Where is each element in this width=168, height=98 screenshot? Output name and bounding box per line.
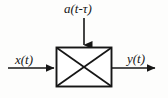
block-diagram-figure: x(t) y(t) a(t-τ) [0,0,168,98]
input-signal-label: x(t) [15,53,33,66]
output-signal-label: y(t) [127,52,145,65]
control-signal-label: a(t-τ) [64,2,92,15]
